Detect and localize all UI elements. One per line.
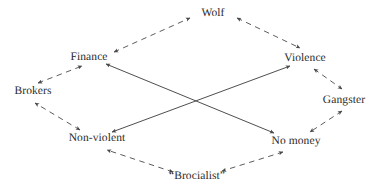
- node-non-violent[interactable]: Non-violent: [69, 132, 126, 144]
- node-brokers[interactable]: Brokers: [14, 85, 51, 97]
- node-brocialist[interactable]: “Brocialist”: [169, 170, 225, 182]
- node-finance[interactable]: Finance: [70, 51, 107, 63]
- node-wolf[interactable]: Wolf: [201, 7, 224, 19]
- diagram-canvas: Wolf Finance Violence Brokers Gangster N…: [0, 0, 378, 192]
- dashed-edge-group: [35, 18, 342, 172]
- edge-finance-wolf: [114, 18, 190, 52]
- edge-no-money-brocialist: [222, 152, 283, 171]
- edge-brocialist-non-violent: [107, 150, 173, 172]
- edge-layer: [0, 0, 378, 192]
- edge-non-violent-violence: [112, 66, 290, 132]
- node-violence[interactable]: Violence: [284, 52, 326, 64]
- edge-brokers-finance: [38, 66, 82, 83]
- node-gangster[interactable]: Gangster: [323, 94, 365, 106]
- edge-finance-no-money: [106, 64, 274, 133]
- edge-wolf-violence: [237, 18, 300, 48]
- node-no-money[interactable]: No money: [271, 135, 320, 147]
- edge-non-violent-brokers: [35, 103, 80, 130]
- solid-edge-group: [106, 64, 290, 133]
- edge-violence-gangster: [314, 69, 342, 89]
- edge-gangster-no-money: [310, 111, 342, 132]
